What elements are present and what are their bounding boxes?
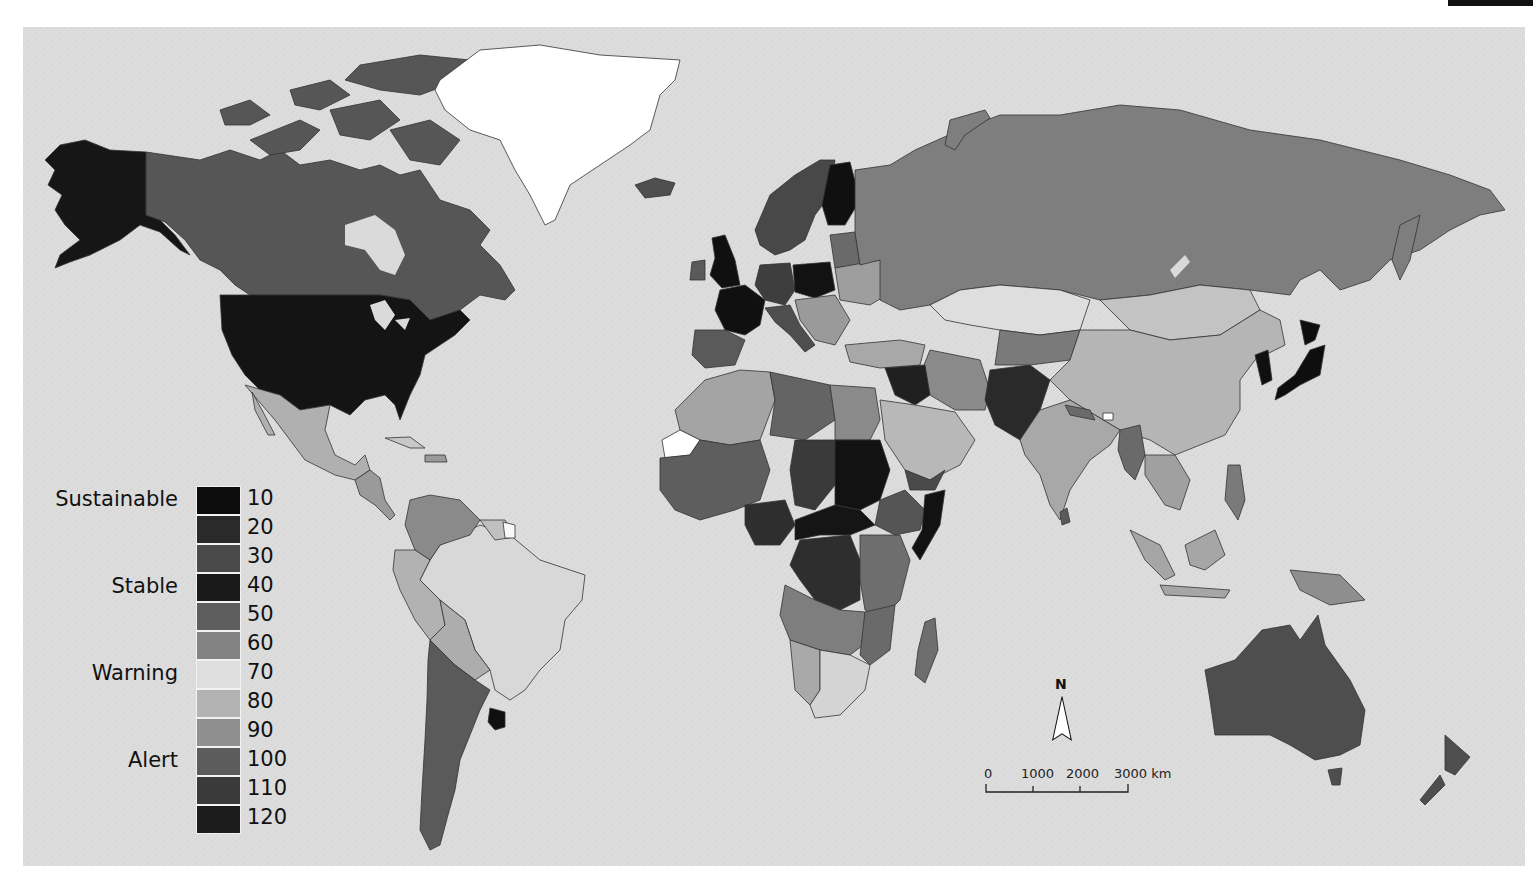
legend-value: 20	[247, 515, 274, 539]
legend-value: 40	[247, 573, 274, 597]
legend-swatch	[196, 689, 241, 718]
region-turkey[interactable]	[845, 340, 925, 368]
legend-row-100: Alert 100	[28, 747, 288, 776]
legend-value: 80	[247, 689, 274, 713]
legend-row-70: Warning 70	[28, 660, 288, 689]
legend-swatch	[196, 660, 241, 689]
legend-value: 70	[247, 660, 274, 684]
legend-value: 100	[247, 747, 287, 771]
legend-category-warning: Warning	[18, 661, 178, 685]
legend-swatch	[196, 631, 241, 660]
legend-value: 10	[247, 486, 274, 510]
scale-tick-2000: 2000	[1066, 766, 1099, 781]
region-poland[interactable]	[793, 262, 835, 298]
legend-value: 120	[247, 805, 287, 829]
legend-row-50: 50	[28, 602, 288, 631]
legend-swatch	[196, 515, 241, 544]
legend-swatch	[196, 602, 241, 631]
legend-row-120: 120	[28, 805, 288, 834]
legend-category-alert: Alert	[18, 748, 178, 772]
legend-category-sustainable: Sustainable	[18, 487, 178, 511]
legend-row-60: 60	[28, 631, 288, 660]
legend-row-30: 30	[28, 544, 288, 573]
north-arrow-icon	[1042, 695, 1082, 757]
legend-row-90: 90	[28, 718, 288, 747]
legend-value: 60	[247, 631, 274, 655]
region-french-guiana	[503, 522, 515, 538]
legend-category-stable: Stable	[18, 574, 178, 598]
region-hispaniola	[425, 455, 447, 462]
legend-swatch	[196, 805, 241, 834]
top-edge-bar	[1448, 0, 1533, 6]
legend-row-110: 110	[28, 776, 288, 805]
region-egypt[interactable]	[830, 385, 880, 440]
scale-tick-1000: 1000	[1021, 766, 1054, 781]
legend-value: 50	[247, 602, 274, 626]
legend-swatch	[196, 718, 241, 747]
region-ireland	[690, 260, 705, 280]
legend-swatch	[196, 486, 241, 515]
legend-row-80: 80	[28, 689, 288, 718]
north-label: N	[1055, 676, 1067, 692]
legend-value: 30	[247, 544, 274, 568]
legend-value: 90	[247, 718, 274, 742]
legend-row-10: Sustainable 10	[28, 486, 288, 515]
legend-swatch	[196, 573, 241, 602]
legend-row-20: 20	[28, 515, 288, 544]
scale-line	[985, 783, 1135, 795]
legend-swatch	[196, 544, 241, 573]
legend-swatch	[196, 776, 241, 805]
region-central-asia	[995, 330, 1080, 365]
region-bhutan	[1103, 413, 1113, 420]
legend-value: 110	[247, 776, 287, 800]
legend-swatch	[196, 747, 241, 776]
legend-row-40: Stable 40	[28, 573, 288, 602]
scale-tick-0: 0	[984, 766, 992, 781]
scale-tick-3000: 3000 km	[1114, 766, 1171, 781]
